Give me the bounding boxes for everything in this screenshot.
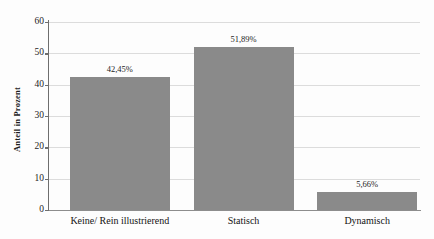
bar xyxy=(317,192,417,210)
y-tick-label: 60 xyxy=(35,17,45,27)
x-axis-line xyxy=(49,210,421,211)
bar-value-label: 51,89% xyxy=(230,35,256,44)
y-tick-mark xyxy=(45,53,49,54)
y-tick-label: 10 xyxy=(35,174,45,184)
plot-area: 010203040506042,45%51,89%5,66% xyxy=(49,22,420,210)
y-tick-label: 0 xyxy=(39,205,44,215)
y-tick-mark xyxy=(45,85,49,86)
gridline xyxy=(49,22,420,23)
y-tick-mark xyxy=(45,210,49,211)
bar-value-label: 5,66% xyxy=(356,180,378,189)
y-tick-mark xyxy=(45,116,49,117)
x-category-label: Statisch xyxy=(228,216,260,226)
y-axis-title: Anteil in Prozent xyxy=(8,0,26,239)
bar xyxy=(70,77,170,210)
y-tick-label: 40 xyxy=(35,80,45,90)
y-tick-mark xyxy=(45,147,49,148)
y-tick-label: 30 xyxy=(35,111,45,121)
bar xyxy=(194,47,294,210)
bar-value-label: 42,45% xyxy=(107,65,133,74)
x-category-label: Keine/ Rein illustrierend xyxy=(70,216,169,226)
y-tick-mark xyxy=(45,22,49,23)
y-tick-label: 50 xyxy=(35,49,45,59)
y-tick-mark xyxy=(45,179,49,180)
bar-chart: Anteil in Prozent 010203040506042,45%51,… xyxy=(0,0,434,239)
y-tick-label: 20 xyxy=(35,143,45,153)
x-category-label: Dynamisch xyxy=(344,216,390,226)
